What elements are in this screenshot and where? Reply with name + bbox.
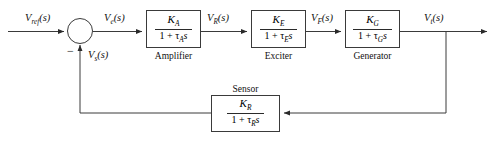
summing-junction <box>67 18 93 44</box>
signal-label-vref: Vref(s) <box>25 13 50 26</box>
block-sensor: KR 1 + τRs <box>211 95 280 132</box>
transfer-function-sensor: KR 1 + τRs <box>227 98 265 129</box>
signal-label-vs: Vs(s) <box>88 50 108 63</box>
signal-label-vt: Vt(s) <box>424 13 444 26</box>
block-generator: KG 1 + τGs <box>345 10 400 48</box>
transfer-function-generator: KG 1 + τGs <box>353 14 392 45</box>
block-amplifier: KA 1 + τAs <box>146 10 201 48</box>
block-label-generator: Generator <box>345 51 400 61</box>
signal-label-ve: Ve(s) <box>104 13 125 26</box>
control-system-block-diagram: − Vref(s) Ve(s) VR(s) VF(s) Vt(s) Vs(s) … <box>0 0 500 141</box>
block-label-sensor: Sensor <box>211 84 280 94</box>
signal-label-vf: VF(s) <box>311 13 333 26</box>
block-label-amplifier: Amplifier <box>146 51 201 61</box>
block-label-exciter: Exciter <box>251 51 306 61</box>
block-exciter: KE 1 + τEs <box>251 10 306 48</box>
signal-label-vr: VR(s) <box>207 13 229 26</box>
summing-junction-minus-sign: − <box>67 45 74 57</box>
transfer-function-amplifier: KA 1 + τAs <box>155 14 193 45</box>
transfer-function-exciter: KE 1 + τEs <box>260 14 298 45</box>
